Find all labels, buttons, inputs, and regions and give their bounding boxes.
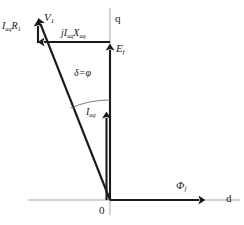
angle-label: δ=φ xyxy=(74,68,91,78)
terminal-voltage-label-sub: 1 xyxy=(51,17,54,24)
excitation-emf-label-sub: f xyxy=(123,48,125,55)
field-flux-label: Φf xyxy=(176,180,186,191)
field-flux-label-sub: f xyxy=(184,185,186,192)
terminal-voltage-label: V1 xyxy=(44,12,54,23)
resistance-drop-label-r-sub: 1 xyxy=(18,25,21,32)
armature-current-label: Iaq xyxy=(86,107,96,117)
phasor-diagram-canvas xyxy=(0,0,244,225)
armature-current-label-sub: aq xyxy=(89,111,95,118)
phasor-diagram: IaqR1 V1 jIaqXaq q Ef δ=φ Iaq Φf d 0 xyxy=(0,0,244,225)
d-axis-label: d xyxy=(226,193,232,204)
terminal-voltage-phasor xyxy=(41,24,111,200)
reactance-drop-label: jIaqXaq xyxy=(61,28,86,38)
resistance-drop-label-i-sub: aq xyxy=(5,25,11,32)
resistance-drop-label: IaqR1 xyxy=(2,21,21,31)
resistance-drop-label-r: R xyxy=(12,20,18,31)
q-axis-label: q xyxy=(115,13,121,24)
terminal-voltage-label-v: V xyxy=(44,11,51,23)
excitation-emf-label-e: E xyxy=(116,42,123,54)
origin-label: 0 xyxy=(99,205,105,216)
reactance-drop-label-i-sub: aq xyxy=(67,32,73,39)
reactance-drop-label-x-sub: aq xyxy=(79,32,85,39)
excitation-emf-label: Ef xyxy=(116,43,125,54)
